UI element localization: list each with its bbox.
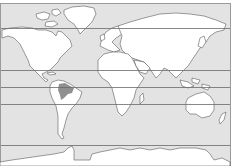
map-canvas	[0, 0, 231, 166]
world-map	[0, 0, 231, 166]
